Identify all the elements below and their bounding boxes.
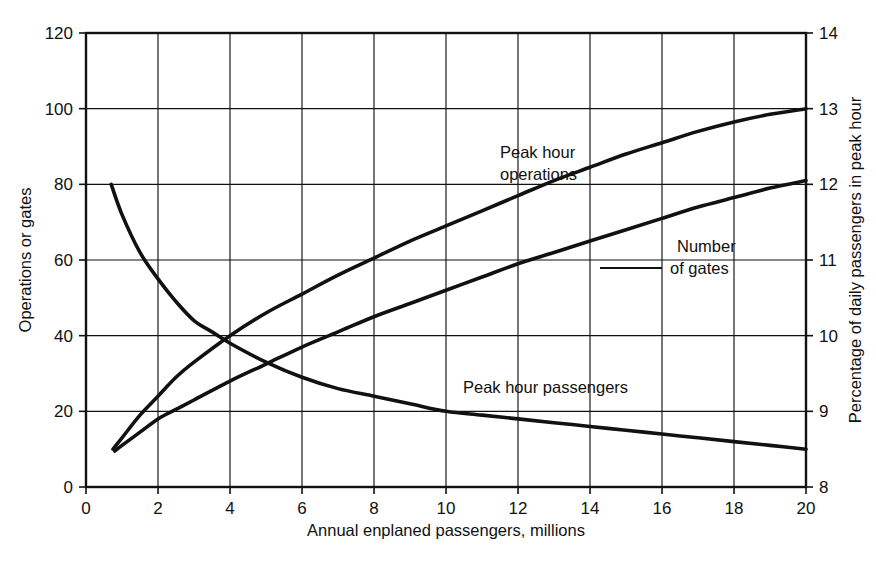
x-tick-label: 14 <box>581 499 600 518</box>
series-label-number-of-gates-line1: Number <box>677 237 736 255</box>
x-axis-title: Annual enplaned passengers, millions <box>307 521 585 539</box>
series-label-peak-hour-passengers: Peak hour passengers <box>463 378 628 396</box>
series-label-peak-hour-operations-line2: operations <box>500 165 577 183</box>
x-tick-label: 10 <box>437 499 456 518</box>
y-left-tick-label: 0 <box>64 478 73 497</box>
y-axis-right-title: Percentage of daily passengers in peak h… <box>846 96 864 423</box>
curve-peak-hour-passengers <box>111 184 806 449</box>
x-tick-label: 2 <box>153 499 162 518</box>
y-right-tick-label: 10 <box>819 327 838 346</box>
chart-figure: 02468101214161820 020406080100120 891011… <box>0 0 876 561</box>
data-curves <box>111 109 806 451</box>
x-tick-label: 4 <box>225 499 234 518</box>
curve-peak-hour-operations <box>113 109 806 450</box>
y-right-tick-label: 13 <box>819 100 838 119</box>
line-chart: 02468101214161820 020406080100120 891011… <box>0 0 876 561</box>
y-axis-right-tick-labels: 891011121314 <box>819 24 838 497</box>
y-left-tick-label: 40 <box>54 327 73 346</box>
x-tick-label: 0 <box>81 499 90 518</box>
y-left-tick-label: 100 <box>45 100 73 119</box>
y-left-tick-label: 20 <box>54 402 73 421</box>
x-tick-label: 8 <box>369 499 378 518</box>
y-axis-left-title: Operations or gates <box>16 188 34 333</box>
series-label-number-of-gates-line2: of gates <box>670 259 729 277</box>
series-label-peak-hour-operations-line1: Peak hour <box>500 143 576 161</box>
y-left-tick-label: 120 <box>45 24 73 43</box>
y-right-tick-label: 8 <box>819 478 828 497</box>
y-right-tick-label: 9 <box>819 402 828 421</box>
y-axis-left-tick-labels: 020406080100120 <box>45 24 73 497</box>
y-right-tick-label: 14 <box>819 24 838 43</box>
y-left-tick-label: 80 <box>54 175 73 194</box>
y-right-tick-label: 12 <box>819 175 838 194</box>
x-tick-label: 16 <box>653 499 672 518</box>
x-tick-label: 6 <box>297 499 306 518</box>
y-left-tick-label: 60 <box>54 251 73 270</box>
x-tick-label: 20 <box>797 499 816 518</box>
x-tick-label: 12 <box>509 499 528 518</box>
y-right-tick-label: 11 <box>819 251 837 270</box>
x-axis-tick-labels: 02468101214161820 <box>81 499 815 518</box>
x-tick-label: 18 <box>725 499 744 518</box>
